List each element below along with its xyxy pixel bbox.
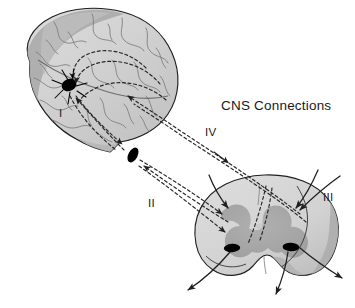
label-numeral-ii: II (148, 197, 155, 209)
label-numeral-iv: IV (205, 126, 216, 138)
cns-diagram-canvas: CNS Connections I II III IV (0, 0, 355, 308)
label-numeral-iii: III (323, 191, 334, 203)
cns-connections-figure: CNS Connections I II III IV (0, 0, 355, 308)
label-numeral-i: I (59, 107, 63, 119)
figure-title: CNS Connections (221, 98, 331, 113)
